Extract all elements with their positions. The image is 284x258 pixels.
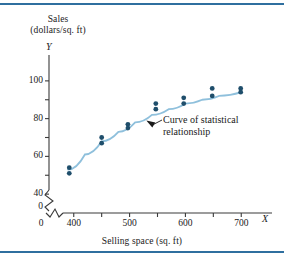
data-point: [99, 135, 104, 140]
data-point: [153, 101, 158, 106]
y-axis-break-mark: [45, 190, 53, 211]
data-point: [99, 141, 104, 146]
chart-figure: Sales (dollars/sq. ft) Y X Selling space…: [0, 0, 284, 258]
data-point: [210, 94, 215, 99]
points-layer: [67, 86, 243, 176]
x-axis-tick-label: 600: [172, 218, 198, 228]
x-axis-tick-label: 500: [117, 218, 143, 228]
data-point: [181, 101, 186, 106]
data-point: [153, 107, 158, 112]
x-axis-tick-label: 700: [228, 218, 254, 228]
data-point: [67, 165, 72, 170]
y-axis-tick-label: 40: [14, 188, 43, 198]
data-point: [238, 90, 243, 95]
data-point: [67, 171, 72, 176]
y-axis-origin-label: 0: [14, 201, 43, 211]
axes-layer: [45, 55, 272, 217]
annotation-leader-line: [153, 120, 162, 125]
data-point: [210, 86, 215, 91]
x-axis-origin-label: 0: [28, 218, 54, 228]
annotation-arrow-layer: [146, 120, 162, 128]
y-axis-tick-label: 100: [14, 75, 43, 85]
data-point: [126, 126, 131, 131]
y-axis-tick-label: 60: [14, 150, 43, 160]
data-point: [181, 95, 186, 100]
annotation-arrowhead-icon: [146, 121, 155, 128]
x-axis-tick-label: 400: [61, 218, 87, 228]
y-axis-tick-label: 80: [14, 113, 43, 123]
